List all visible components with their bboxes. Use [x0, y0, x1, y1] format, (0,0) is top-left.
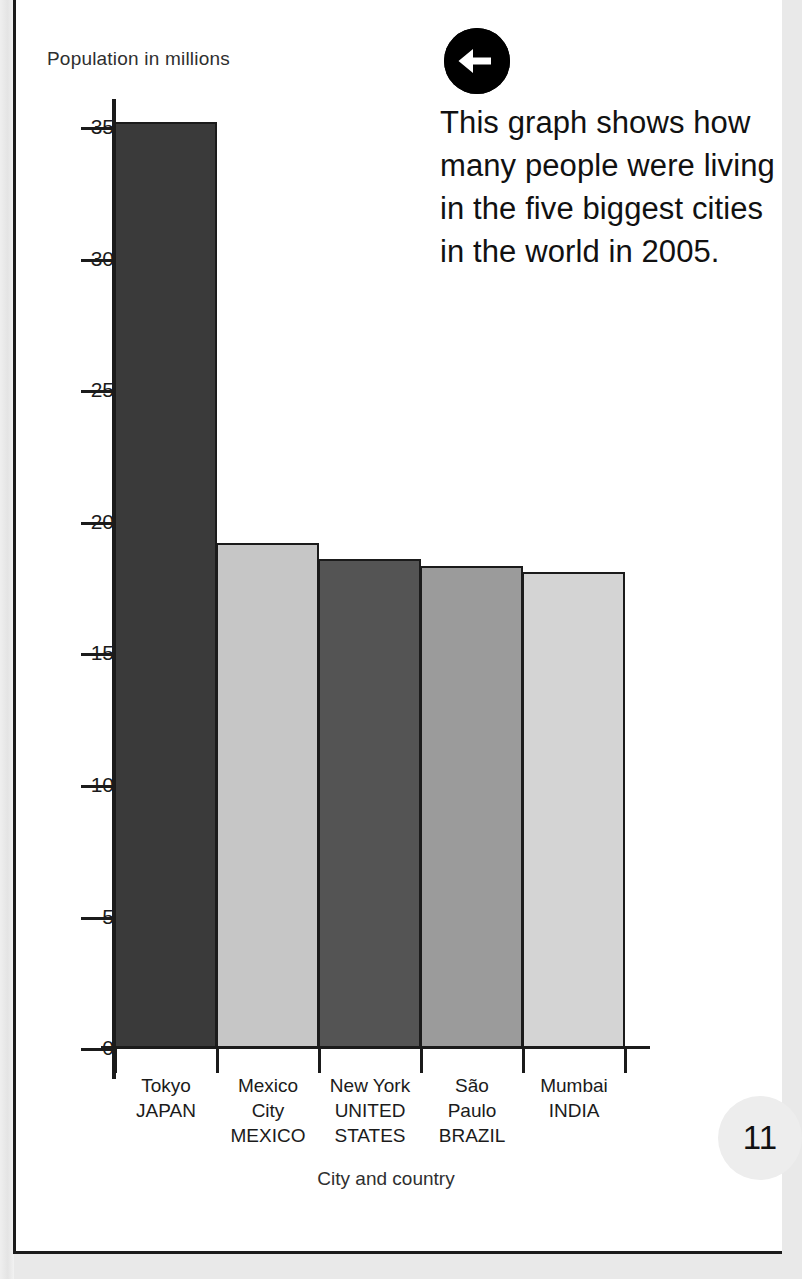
x-label-line: Mumbai: [518, 1073, 630, 1098]
bar-tokyo: [114, 122, 217, 1048]
x-label-line: New York: [314, 1073, 426, 1098]
x-tick-mark: [522, 1049, 525, 1073]
y-tick-label: 0: [74, 1036, 114, 1060]
y-tick-label: 20: [74, 510, 114, 534]
x-tick-mark: [420, 1049, 423, 1073]
x-label-line: MEXICO: [212, 1123, 324, 1148]
x-tick-label-sao-paulo: São Paulo BRAZIL: [416, 1073, 528, 1148]
x-label-line: Mexico: [212, 1073, 324, 1098]
arrow-left-icon: [444, 28, 510, 94]
y-tick-label: 35: [74, 115, 114, 139]
x-label-line: STATES: [314, 1123, 426, 1148]
page-edge-strip: [0, 0, 14, 1279]
y-axis-title: Population in millions: [47, 48, 230, 70]
x-label-line: City: [212, 1098, 324, 1123]
x-label-line: JAPAN: [110, 1098, 222, 1123]
page-number-badge: 11: [718, 1096, 802, 1180]
x-tick-mark: [624, 1049, 627, 1073]
x-label-line: Tokyo: [110, 1073, 222, 1098]
x-label-line: INDIA: [518, 1098, 630, 1123]
x-label-line: São: [416, 1073, 528, 1098]
x-tick-label-new-york: New York UNITED STATES: [314, 1073, 426, 1148]
callout-text: This graph shows how many people were li…: [440, 101, 780, 273]
bar-sao-paulo: [420, 566, 523, 1048]
x-label-line: Paulo: [416, 1098, 528, 1123]
page-sheet: Population in millions 35 30 25 20 15 10: [13, 0, 782, 1254]
bar-new-york: [318, 559, 421, 1048]
x-tick-label-tokyo: Tokyo JAPAN: [110, 1073, 222, 1123]
x-label-line: UNITED: [314, 1098, 426, 1123]
y-tick-label: 15: [74, 641, 114, 665]
x-tick-mark: [114, 1049, 117, 1073]
bar-mexico-city: [216, 543, 319, 1048]
x-tick-mark: [318, 1049, 321, 1073]
y-tick-label: 10: [74, 773, 114, 797]
x-tick-label-mexico-city: Mexico City MEXICO: [212, 1073, 324, 1148]
x-tick-mark: [216, 1049, 219, 1073]
y-tick-label: 30: [74, 247, 114, 271]
x-tick-label-mumbai: Mumbai INDIA: [518, 1073, 630, 1123]
x-axis-title: City and country: [116, 1168, 656, 1190]
bar-mumbai: [522, 572, 625, 1048]
y-tick-label: 25: [74, 378, 114, 402]
y-tick-label: 5: [74, 905, 114, 929]
x-label-line: BRAZIL: [416, 1123, 528, 1148]
